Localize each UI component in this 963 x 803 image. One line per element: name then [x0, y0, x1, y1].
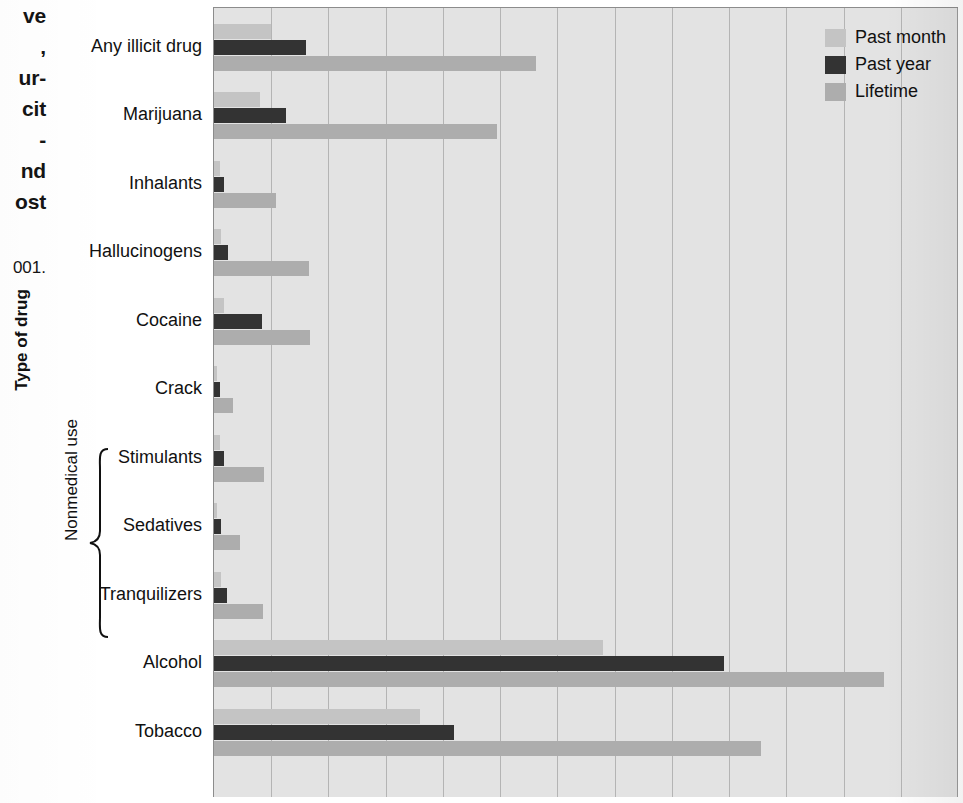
category-label-crack: Crack — [2, 378, 202, 399]
bar-lifetime — [214, 535, 240, 550]
category-label-tobacco: Tobacco — [2, 721, 202, 742]
bar-lifetime — [214, 56, 536, 71]
bar-past_month — [214, 709, 420, 724]
legend-item-past-month[interactable]: Past month — [825, 24, 955, 51]
bar-lifetime — [214, 741, 761, 756]
chart-legend: Past monthPast yearLifetime — [825, 24, 955, 105]
category-label-alcohol: Alcohol — [2, 652, 202, 673]
category-label-cocaine: Cocaine — [2, 310, 202, 331]
category-label-column: Any illicit drugMarijuanaInhalantsHalluc… — [0, 0, 210, 803]
bar-lifetime — [214, 193, 276, 208]
legend-swatch-lifetime-icon — [825, 83, 846, 101]
gridline — [901, 8, 902, 797]
bar-lifetime — [214, 261, 309, 276]
category-label-stimulants: Stimulants — [2, 447, 202, 468]
category-label-tranquilizers: Tranquilizers — [2, 584, 202, 605]
category-label-sedatives: Sedatives — [2, 515, 202, 536]
bar-lifetime — [214, 398, 233, 413]
bar-lifetime — [214, 672, 884, 687]
bar-past_month — [214, 503, 217, 518]
chart-plot-area — [213, 7, 958, 797]
category-label-hallucinogens: Hallucinogens — [2, 241, 202, 262]
bar-past_year — [214, 451, 224, 466]
legend-label: Past year — [855, 54, 931, 75]
bar-past_month — [214, 572, 221, 587]
bar-past_year — [214, 108, 286, 123]
bar-past_month — [214, 366, 217, 381]
bar-lifetime — [214, 330, 310, 345]
bar-past_month — [214, 229, 221, 244]
bar-past_year — [214, 40, 306, 55]
category-label-any-illicit-drug: Any illicit drug — [2, 36, 202, 57]
category-label-marijuana: Marijuana — [2, 104, 202, 125]
bar-past_month — [214, 640, 603, 655]
bar-past_month — [214, 161, 220, 176]
legend-item-lifetime[interactable]: Lifetime — [825, 78, 955, 105]
bar-past_month — [214, 24, 271, 39]
legend-label: Lifetime — [855, 81, 918, 102]
legend-label: Past month — [855, 27, 946, 48]
legend-swatch-past-year-icon — [825, 56, 846, 74]
bar-past_year — [214, 656, 724, 671]
legend-item-past-year[interactable]: Past year — [825, 51, 955, 78]
legend-swatch-past-month-icon — [825, 29, 846, 47]
bar-past_year — [214, 519, 221, 534]
category-label-inhalants: Inhalants — [2, 173, 202, 194]
bar-past_year — [214, 725, 454, 740]
bar-past_year — [214, 382, 220, 397]
bar-lifetime — [214, 467, 264, 482]
bar-lifetime — [214, 604, 263, 619]
bar-past_year — [214, 245, 228, 260]
bar-lifetime — [214, 124, 497, 139]
bar-past_month — [214, 92, 260, 107]
bar-past_year — [214, 588, 227, 603]
bar-past_month — [214, 435, 220, 450]
bar-past_year — [214, 314, 262, 329]
bar-past_month — [214, 298, 224, 313]
bar-past_year — [214, 177, 224, 192]
